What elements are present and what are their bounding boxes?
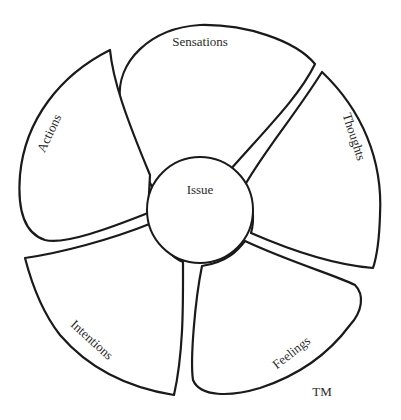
- trademark-mark: TM: [312, 384, 332, 399]
- five-petal-diagram: Sensations Thoughts Feelings Intentions …: [0, 0, 401, 420]
- label-issue: Issue: [187, 182, 214, 197]
- petal-intentions[interactable]: [25, 223, 183, 395]
- label-sensations: Sensations: [172, 34, 228, 49]
- issue-hub[interactable]: [147, 157, 253, 263]
